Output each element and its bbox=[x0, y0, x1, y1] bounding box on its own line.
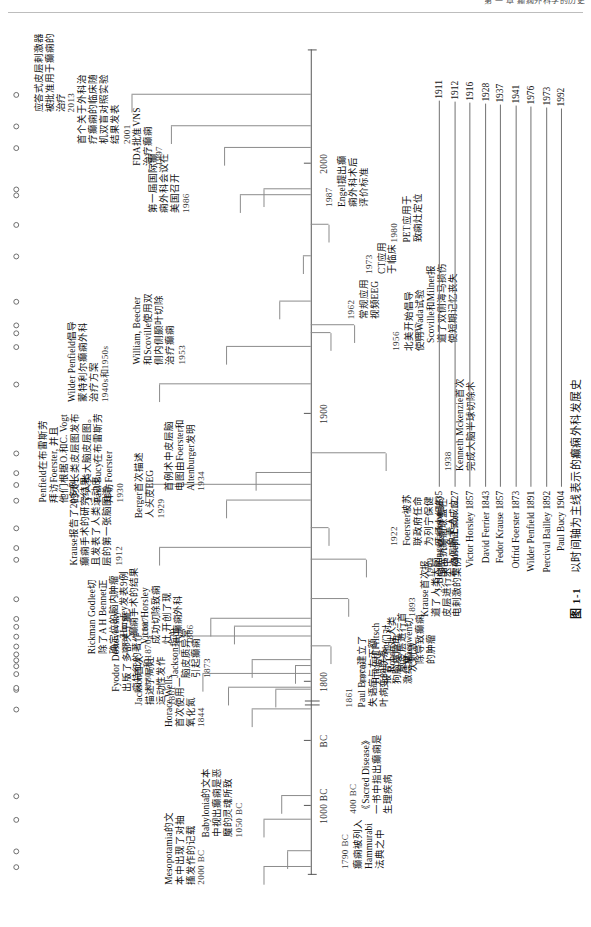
timeline-node[interactable] bbox=[13, 322, 19, 328]
timeline-node[interactable] bbox=[13, 91, 19, 97]
timeline-node[interactable] bbox=[13, 670, 19, 676]
person-lifespan-line bbox=[499, 104, 500, 486]
event-description: Rickman Godlee切 除了A H Bennet正 确定位的脑内肿瘤 bbox=[86, 574, 119, 654]
person-death-year: 1937 bbox=[494, 63, 505, 102]
timeline-node[interactable] bbox=[13, 623, 19, 629]
timeline-event[interactable]: Wilder Penfield倡导 蒙特利尔癫痫外科 治疗方案1940s和195… bbox=[66, 244, 110, 402]
timeline-node[interactable] bbox=[13, 643, 19, 649]
event-year: 1874 bbox=[373, 553, 384, 671]
figure-caption: 图 1-1 以时间轴为主线表示的癫痫外科发展史 bbox=[566, 379, 582, 619]
timeline-node[interactable] bbox=[13, 662, 19, 668]
person-death-year: 1912 bbox=[448, 60, 459, 99]
axis-tick-label: 1000 BC bbox=[318, 788, 328, 824]
person-lifespan-line bbox=[438, 100, 439, 486]
axis-tick bbox=[303, 412, 310, 413]
event-description: 应答式皮层刺激器 被批准用于癫痫的 治疗 bbox=[33, 32, 66, 112]
person-death-year: 1928 bbox=[479, 62, 490, 101]
event-year: 1922 bbox=[389, 427, 400, 545]
person-death-year: 1941 bbox=[509, 64, 520, 103]
timeline-node[interactable] bbox=[13, 633, 19, 639]
timeline-node[interactable] bbox=[13, 651, 19, 657]
timeline-node[interactable] bbox=[13, 381, 19, 387]
timeline-node[interactable] bbox=[13, 186, 19, 192]
timeline-event[interactable]: 应答式皮层刺激器 被批准用于癫痫的 治疗2013 bbox=[33, 14, 77, 112]
page-header-text: 第 一 章 癫痫外科学的历史 bbox=[484, 0, 585, 5]
timeline-node[interactable] bbox=[13, 469, 19, 475]
timeline-event[interactable]: FDA批准VNS 治疗癫痫1997 bbox=[131, 37, 164, 165]
axis-tick-label: 1900 bbox=[318, 403, 328, 423]
timeline-node[interactable] bbox=[13, 144, 19, 150]
event-description: Foerster被苏 联政府任命 为列宁保健 医师小组的 负责人 bbox=[401, 494, 456, 546]
timeline-node[interactable] bbox=[13, 595, 19, 601]
event-description: Scoville和Milner报 道了双侧海马损伤 使短期记忆丧失 bbox=[424, 263, 457, 343]
timeline-node[interactable] bbox=[13, 524, 19, 530]
axis-end-cap bbox=[307, 49, 316, 50]
timeline-event[interactable]: 1980PET应用于 致痫灶定位 bbox=[389, 134, 422, 242]
timeline-event[interactable]: Berger首次描述 人头皮EEG1929 bbox=[133, 400, 166, 518]
axis-tick bbox=[303, 804, 310, 805]
timeline-node[interactable] bbox=[13, 123, 19, 129]
timeline-node[interactable] bbox=[13, 816, 19, 822]
person-lifespan-label[interactable]: Paul Bucy 1904 bbox=[555, 490, 566, 914]
event-description: 《Sacred Disease》 一书中指出癫痫是 生理疾病 bbox=[359, 734, 392, 814]
timeline-node[interactable] bbox=[13, 192, 19, 198]
timeline-node[interactable] bbox=[13, 253, 19, 259]
person-lifespan-label[interactable]: David Ferrier 1843 bbox=[479, 490, 490, 914]
timeline-node[interactable] bbox=[13, 497, 19, 503]
timeline-node[interactable] bbox=[13, 792, 19, 798]
event-year: 1987 bbox=[324, 88, 335, 206]
figure-caption-number: 图 1-1 bbox=[569, 587, 581, 618]
person-lifespan-line bbox=[484, 103, 485, 486]
event-year: 1980 bbox=[389, 134, 400, 242]
timeline-node[interactable] bbox=[13, 848, 19, 854]
timeline-node[interactable] bbox=[13, 329, 19, 335]
timeline-node[interactable] bbox=[13, 556, 19, 562]
person-lifespan-label[interactable]: Joseph Lister 1827 bbox=[448, 490, 459, 914]
event-description: 首个关于外科治 疗癫痫的临床随 机双盲对照实验 结果发表 bbox=[76, 74, 120, 144]
person-lifespan-label[interactable]: Otfrid Foerster 1873 bbox=[509, 490, 520, 914]
event-description: Berger首次描述 人头皮EEG bbox=[133, 452, 155, 518]
timeline-node[interactable] bbox=[13, 298, 19, 304]
event-description: Macewen切 除导致癫痫 的肿瘤 bbox=[403, 614, 436, 664]
timeline-node[interactable] bbox=[13, 615, 19, 621]
person-lifespan-line bbox=[560, 108, 561, 486]
timeline-event[interactable]: 1987Engel提出癫 痫外科术后 评价标准 bbox=[324, 88, 368, 206]
timeline-event[interactable]: 首例术中皮层脑 电图由Foerster和 Altenburger发明1934 bbox=[163, 352, 207, 490]
axis-tick bbox=[303, 739, 310, 740]
timeline-node[interactable] bbox=[13, 481, 19, 487]
timeline-event[interactable]: William, Beecher 和Scoville使用双 侧内侧颞叶切除 治疗… bbox=[131, 226, 186, 364]
timeline-node[interactable] bbox=[13, 221, 19, 227]
event-description: William, Beecher 和Scoville使用双 侧内侧颞叶切除 治疗… bbox=[131, 293, 175, 365]
person-lifespan-label[interactable]: Fedor Krause 1857 bbox=[494, 490, 505, 914]
event-year: 1870 bbox=[358, 565, 369, 683]
timeline-node[interactable] bbox=[13, 863, 19, 869]
event-year: 2001 bbox=[121, 14, 132, 143]
event-year: 1873 bbox=[202, 569, 213, 677]
timeline-event[interactable]: 首个关于外科治 疗癫痫的临床随 机双盲对照实验 结果发表2001 bbox=[76, 14, 131, 143]
timeline-node[interactable] bbox=[13, 544, 19, 550]
event-year: 1887 bbox=[140, 508, 151, 636]
event-year: 1930 bbox=[114, 325, 125, 502]
timeline-node[interactable] bbox=[13, 656, 19, 662]
person-lifespan-label[interactable]: Victor Horsley 1857 bbox=[463, 490, 474, 914]
timeline-node[interactable] bbox=[13, 450, 19, 456]
event-description: CT应用 于临床 bbox=[375, 241, 397, 273]
person-lifespan-label[interactable]: J. Hughlings Jackson 1835 bbox=[433, 490, 444, 914]
person-lifespan-line bbox=[515, 105, 516, 486]
axis-tick-label: BC bbox=[318, 734, 328, 747]
person-death-year: 1973 bbox=[540, 66, 551, 105]
event-year: 2013 bbox=[66, 14, 77, 112]
person-lifespan-label[interactable]: Percival Bailley 1892 bbox=[540, 490, 551, 914]
person-lifespan-line bbox=[469, 102, 470, 486]
event-description: 常规应用 视频EEG bbox=[357, 279, 379, 319]
axis-tick-label: 1800 bbox=[318, 671, 328, 691]
axis-start-cap bbox=[307, 873, 316, 874]
person-lifespan-label[interactable]: Wilder Penfield 1891 bbox=[525, 490, 536, 914]
person-death-year: 1916 bbox=[463, 61, 474, 100]
event-year: 1861 bbox=[344, 579, 355, 707]
timeline-node[interactable] bbox=[13, 684, 19, 690]
event-description: Penfield在布雷斯劳 拜访Foerster, 并且 他们根据O.和C. V… bbox=[36, 412, 113, 502]
timeline-node[interactable] bbox=[13, 706, 19, 712]
timeline-node[interactable] bbox=[13, 343, 19, 349]
axis-break-mark bbox=[304, 700, 319, 701]
